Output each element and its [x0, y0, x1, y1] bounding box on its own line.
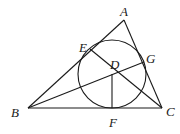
label-d: D — [109, 57, 120, 72]
diagram-labels: A B C D E F G — [11, 4, 175, 130]
label-f: F — [108, 115, 118, 130]
label-b: B — [11, 105, 19, 120]
label-c: C — [166, 104, 175, 119]
segment-ca — [124, 20, 162, 108]
label-g: G — [146, 51, 156, 66]
diagram-shapes — [28, 20, 162, 108]
segment-bg — [28, 62, 144, 108]
geometry-diagram: A B C D E F G — [0, 0, 180, 134]
label-e: E — [78, 40, 87, 55]
label-a: A — [119, 4, 128, 19]
